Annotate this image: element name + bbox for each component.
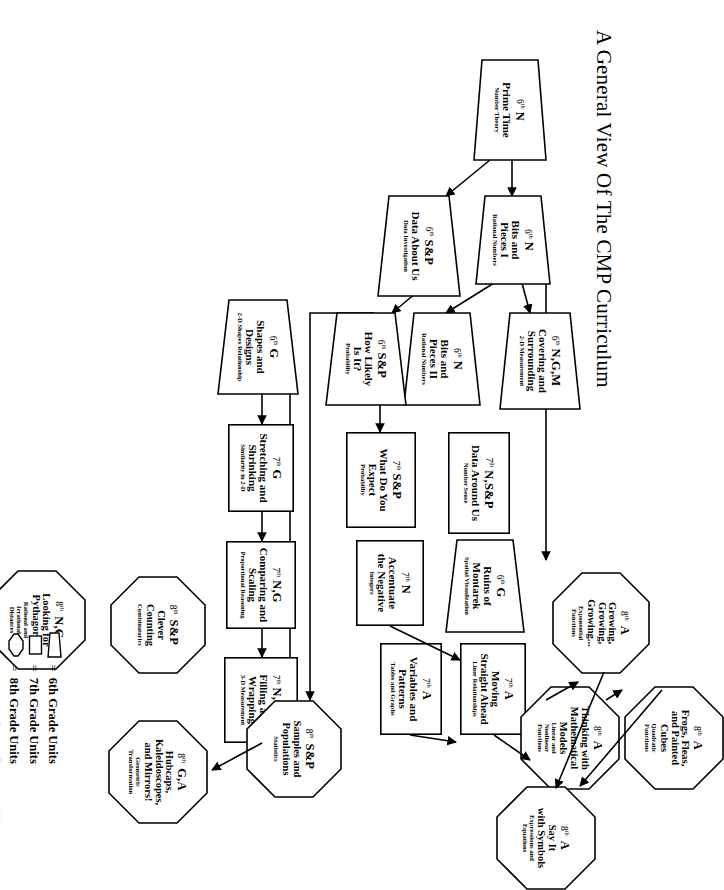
rectangle-icon: [24, 628, 43, 661]
trapezoid-shape: [218, 300, 298, 394]
rectangle-shape: [460, 643, 526, 735]
octagon-shape: [246, 700, 342, 798]
rectangle-shape: [356, 540, 424, 626]
node-samples-and-populations[interactable]: 8th S&P Samples andPopulations Statistic…: [246, 700, 342, 798]
octagon-shape: [496, 786, 596, 890]
node-what-do-you-expect[interactable]: 7th S&P What Do YouExpect Probability: [346, 432, 416, 528]
node-bits-and-pieces-i[interactable]: 6th N Bits andPieces I Rational Numbers: [476, 196, 550, 284]
legend-row-7th: = 7th Grade Units: [24, 628, 43, 833]
legend-row-6th: = 6th Grade Units: [43, 628, 62, 833]
trapezoid-icon: [43, 628, 62, 661]
octagon-icon: [4, 628, 24, 661]
legend-label-8th: 8th Grade Units: [4, 675, 24, 833]
node-data-about-us[interactable]: 6th S&P Data About Us Data Investigation: [378, 196, 460, 296]
node-accentuate-the-negative[interactable]: 7th N Accentuatethe Negative Integers: [356, 540, 424, 626]
legend-label-connection: Connection and Prerequisite: [0, 675, 4, 833]
legend-equals: =: [24, 661, 43, 675]
node-say-it-with-symbols[interactable]: 8th A Say Itwith Symbols Expressions and…: [496, 786, 596, 890]
legend-label-7th: 7th Grade Units: [24, 675, 43, 833]
node-how-likely-is-it[interactable]: 6th S&P How LikelyIs It? Probability: [326, 313, 406, 405]
octagon-shape: [520, 686, 620, 790]
trapezoid-shape: [476, 196, 550, 284]
node-ruins-of-montarek[interactable]: 6th G Ruins ofMontarek Spatial Visualiza…: [446, 540, 524, 632]
node-stretching-and-shrinking[interactable]: 7th G Stretching andShrinking Similarity…: [228, 424, 294, 512]
rectangle-shape: [226, 541, 296, 629]
legend-equals: =: [43, 661, 62, 675]
arrow-icon: [0, 628, 4, 661]
legend-label-6th: 6th Grade Units: [43, 675, 62, 833]
node-prime-time[interactable]: 6th N Prime Time Number Theory: [474, 60, 546, 160]
node-comparing-and-scaling[interactable]: 7th N,G Comparing andScaling Proportiona…: [226, 541, 296, 629]
octagon-shape: [552, 572, 650, 674]
legend-equals: =: [4, 661, 24, 675]
trapezoid-shape: [474, 60, 546, 160]
trapezoid-shape: [500, 313, 580, 409]
trapezoid-shape: [378, 196, 460, 296]
legend-row-8th: = 8th Grade Units: [4, 628, 24, 833]
octagon-shape: [108, 720, 208, 824]
trapezoid-shape: [446, 540, 524, 632]
octagon-shape: [624, 686, 724, 790]
legend-equals: =: [0, 661, 4, 675]
page-title: A General View Of The CMP Curriculum: [591, 30, 616, 388]
node-moving-straight-ahead[interactable]: 7th A MovingStraight Ahead Liner Relatio…: [460, 643, 526, 735]
node-frogs-fleas-and-painted-cubes[interactable]: 8th A Frogs, Fleas,and PaintedCubes Quad…: [624, 686, 724, 790]
rectangle-shape: [228, 424, 294, 512]
octagon-shape: [110, 576, 206, 674]
legend: = 6th Grade Units = 7th Grade Units = 8t…: [0, 628, 62, 833]
node-thinking-with-mathematical-models[interactable]: 8th A Thinking withMathematicalModels Li…: [520, 686, 620, 790]
legend-table: = 6th Grade Units = 7th Grade Units = 8t…: [0, 628, 62, 833]
node-clever-counting[interactable]: 8th S&P CleverCounting Combinatorics: [110, 576, 206, 674]
node-hubcaps-kaleidoscopes-and-mirrors[interactable]: 8th G,A Hubcaps,Kaleidoscopes,and Mirror…: [108, 720, 208, 824]
node-bits-and-pieces-ii[interactable]: 6th N Bits andPieces II Rational Numbers: [404, 313, 480, 405]
rectangle-shape: [380, 643, 442, 735]
node-variables-and-patterns[interactable]: 7th A Variables andPatterns Tables and G…: [380, 643, 442, 735]
node-data-around-us[interactable]: 7th N,S&P Data Around Us Number Sense: [448, 432, 510, 534]
node-growing-growing-growing[interactable]: 8th A Growing,Growing,Growing... Exponen…: [552, 572, 650, 674]
node-shapes-and-designs[interactable]: 6th G Shapes andDesigns 2-D Shapes Relat…: [218, 300, 298, 394]
rectangle-shape: [448, 432, 510, 534]
legend-row-connection: = Connection and Prerequisite: [0, 628, 4, 833]
node-covering-and-surrounding[interactable]: 6th N,G,M Covering andSurrounding 2-D Me…: [500, 313, 580, 409]
trapezoid-shape: [404, 313, 480, 405]
rectangle-shape: [346, 432, 416, 528]
trapezoid-shape: [326, 313, 406, 405]
